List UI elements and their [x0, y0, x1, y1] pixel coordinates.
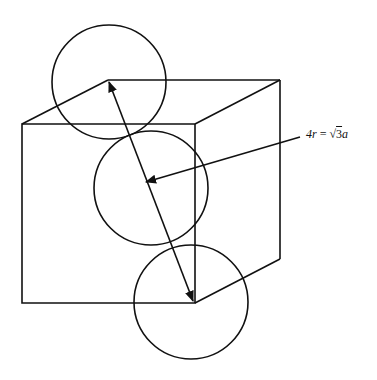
- atom-bottom-corner: [134, 245, 248, 359]
- equation-rhs-var: a: [342, 127, 348, 141]
- equation-lhs: 4r: [306, 127, 317, 141]
- cube-diagram-canvas: [0, 0, 377, 380]
- equation-label: 4r = √3a: [306, 127, 348, 142]
- bcc-diagram: 4r = √3a: [0, 0, 377, 380]
- cube-edge: [195, 259, 280, 303]
- equation-equals: =: [320, 127, 327, 141]
- cube-edge: [195, 80, 280, 124]
- atom-body-center: [94, 131, 208, 245]
- pointer-arrow: [146, 137, 300, 182]
- body-diagonal-arrow: [109, 82, 193, 301]
